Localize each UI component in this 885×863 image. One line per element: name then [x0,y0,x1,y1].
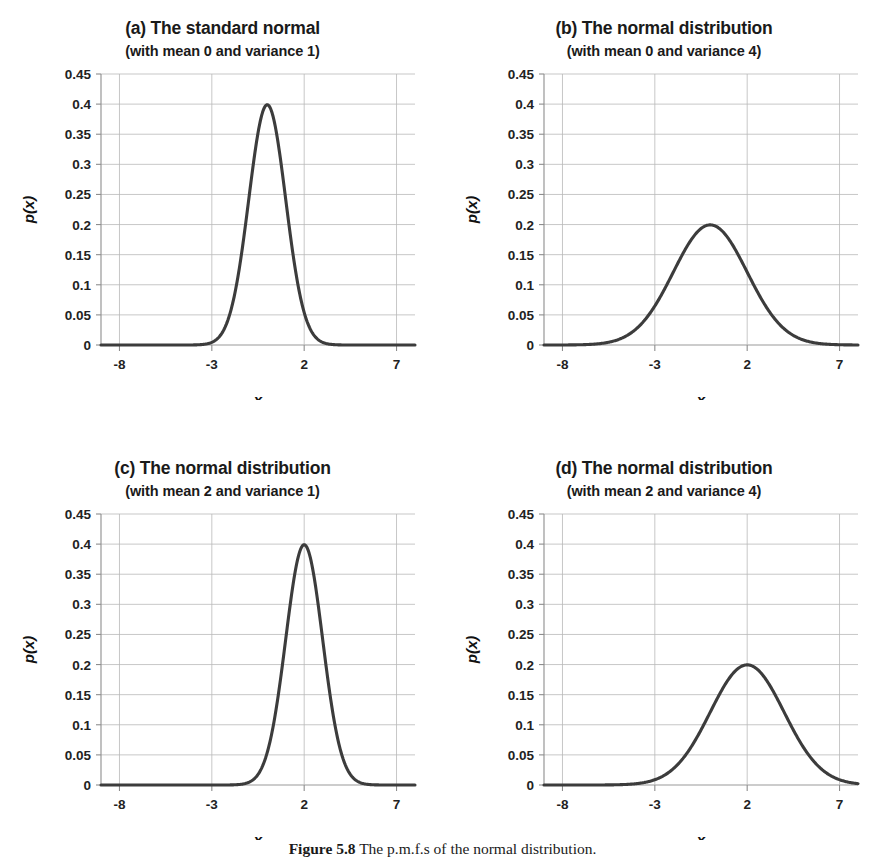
y-tick-label: 0.25 [65,627,92,642]
x-axis-title: x [253,391,263,400]
panel-c-heading: (c) The normal distribution (with mean 2… [0,458,445,500]
panel-b-title: (b) The normal distribution [443,18,885,39]
panel-a-plot: 00.050.10.150.20.250.30.350.40.45-8-327p… [0,60,445,400]
x-tick-label: 2 [300,357,308,372]
x-tick-label: 7 [836,797,844,812]
panel-c: (c) The normal distribution (with mean 2… [0,458,445,858]
y-tick-label: 0.2 [72,217,91,232]
y-tick-label: 0.35 [65,567,92,582]
y-tick-label: 0.1 [515,278,534,293]
x-tick-label: 7 [393,797,401,812]
plot-d-svg: 00.050.10.150.20.250.30.350.40.45-8-327p… [443,500,863,840]
y-tick-label: 0.15 [508,687,535,702]
y-tick-label: 0.3 [515,157,534,172]
y-tick-label: 0.15 [65,687,92,702]
y-tick-label: 0.45 [65,67,92,82]
y-tick-label: 0.35 [508,127,535,142]
x-tick-label: -8 [556,357,568,372]
y-tick-label: 0.25 [65,187,92,202]
panel-d-subtitle: (with mean 2 and variance 4) [443,482,885,500]
plot-a-svg: 00.050.10.150.20.250.30.350.40.45-8-327p… [0,60,420,400]
x-tick-label: 2 [300,797,308,812]
x-axis-title: x [696,391,706,400]
y-tick-label: 0.45 [508,507,535,522]
panel-c-plot: 00.050.10.150.20.250.30.350.40.45-8-327p… [0,500,445,840]
panel-b-subtitle: (with mean 0 and variance 4) [443,42,885,60]
y-tick-label: 0.1 [515,718,534,733]
plot-b-svg: 00.050.10.150.20.250.30.350.40.45-8-327p… [443,60,863,400]
y-tick-label: 0.45 [508,67,535,82]
y-tick-label: 0.2 [515,217,534,232]
panel-d-plot: 00.050.10.150.20.250.30.350.40.45-8-327p… [443,500,885,840]
y-tick-label: 0.25 [508,187,535,202]
y-tick-label: 0.3 [72,597,91,612]
y-axis-title: p(x) [20,636,37,665]
panel-b-plot: 00.050.10.150.20.250.30.350.40.45-8-327p… [443,60,885,400]
y-tick-label: 0.35 [65,127,92,142]
figure-grid: (a) The standard normal (with mean 0 and… [0,0,885,840]
panel-a: (a) The standard normal (with mean 0 and… [0,18,445,438]
y-tick-label: 0 [526,338,534,353]
y-axis-title: p(x) [463,636,480,665]
panel-a-title: (a) The standard normal [0,18,445,39]
y-tick-label: 0.15 [65,247,92,262]
x-tick-label: -3 [206,357,218,372]
y-tick-label: 0.4 [72,97,91,112]
x-axis-title: x [253,831,263,840]
y-axis-title: p(x) [463,196,480,225]
y-tick-label: 0.1 [72,718,91,733]
x-tick-label: 7 [836,357,844,372]
x-tick-label: -8 [556,797,568,812]
y-tick-label: 0.4 [515,97,534,112]
y-tick-label: 0 [83,338,91,353]
figure-caption: Figure 5.8 The p.m.f.s of the normal dis… [0,840,885,863]
y-tick-label: 0.2 [72,657,91,672]
y-tick-label: 0.15 [508,247,535,262]
plot-c-svg: 00.050.10.150.20.250.30.350.40.45-8-327p… [0,500,420,840]
y-tick-label: 0.4 [72,537,91,552]
x-tick-label: -8 [113,357,125,372]
y-tick-label: 0.1 [72,278,91,293]
x-tick-label: 2 [743,797,751,812]
y-tick-label: 0.45 [65,507,92,522]
y-tick-label: 0.3 [72,157,91,172]
panel-a-subtitle: (with mean 0 and variance 1) [0,42,445,60]
y-tick-label: 0.4 [515,537,534,552]
y-tick-label: 0.05 [508,748,535,763]
x-tick-label: -3 [649,357,661,372]
y-tick-label: 0.3 [515,597,534,612]
x-axis-title: x [696,831,706,840]
panel-b: (b) The normal distribution (with mean 0… [443,18,885,438]
panel-c-title: (c) The normal distribution [0,458,445,479]
panel-d-heading: (d) The normal distribution (with mean 2… [443,458,885,500]
y-axis-title: p(x) [20,196,37,225]
panel-c-subtitle: (with mean 2 and variance 1) [0,482,445,500]
y-tick-label: 0.05 [65,748,92,763]
panel-b-heading: (b) The normal distribution (with mean 0… [443,18,885,60]
y-tick-label: 0 [83,778,91,793]
x-tick-label: -3 [649,797,661,812]
y-tick-label: 0 [526,778,534,793]
panel-d: (d) The normal distribution (with mean 2… [443,458,885,858]
panel-d-title: (d) The normal distribution [443,458,885,479]
y-tick-label: 0.25 [508,627,535,642]
figure-caption-label: Figure 5.8 [289,840,356,857]
x-tick-label: 7 [393,357,401,372]
y-tick-label: 0.2 [515,657,534,672]
figure-caption-text: The p.m.f.s of the normal distribution. [359,840,596,857]
x-tick-label: 2 [743,357,751,372]
y-tick-label: 0.35 [508,567,535,582]
x-tick-label: -3 [206,797,218,812]
x-tick-label: -8 [113,797,125,812]
panel-a-heading: (a) The standard normal (with mean 0 and… [0,18,445,60]
y-tick-label: 0.05 [65,308,92,323]
y-tick-label: 0.05 [508,308,535,323]
